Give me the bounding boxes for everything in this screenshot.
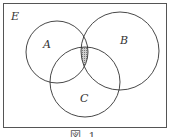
set-c-label: C <box>80 92 89 105</box>
set-b-label: B <box>119 34 128 47</box>
universe-label: E <box>10 10 19 23</box>
set-a-circle <box>26 21 88 83</box>
venn-diagram: E A B C <box>0 0 171 137</box>
figure-caption: 図 1 <box>70 130 110 137</box>
set-a-label: A <box>42 38 51 51</box>
